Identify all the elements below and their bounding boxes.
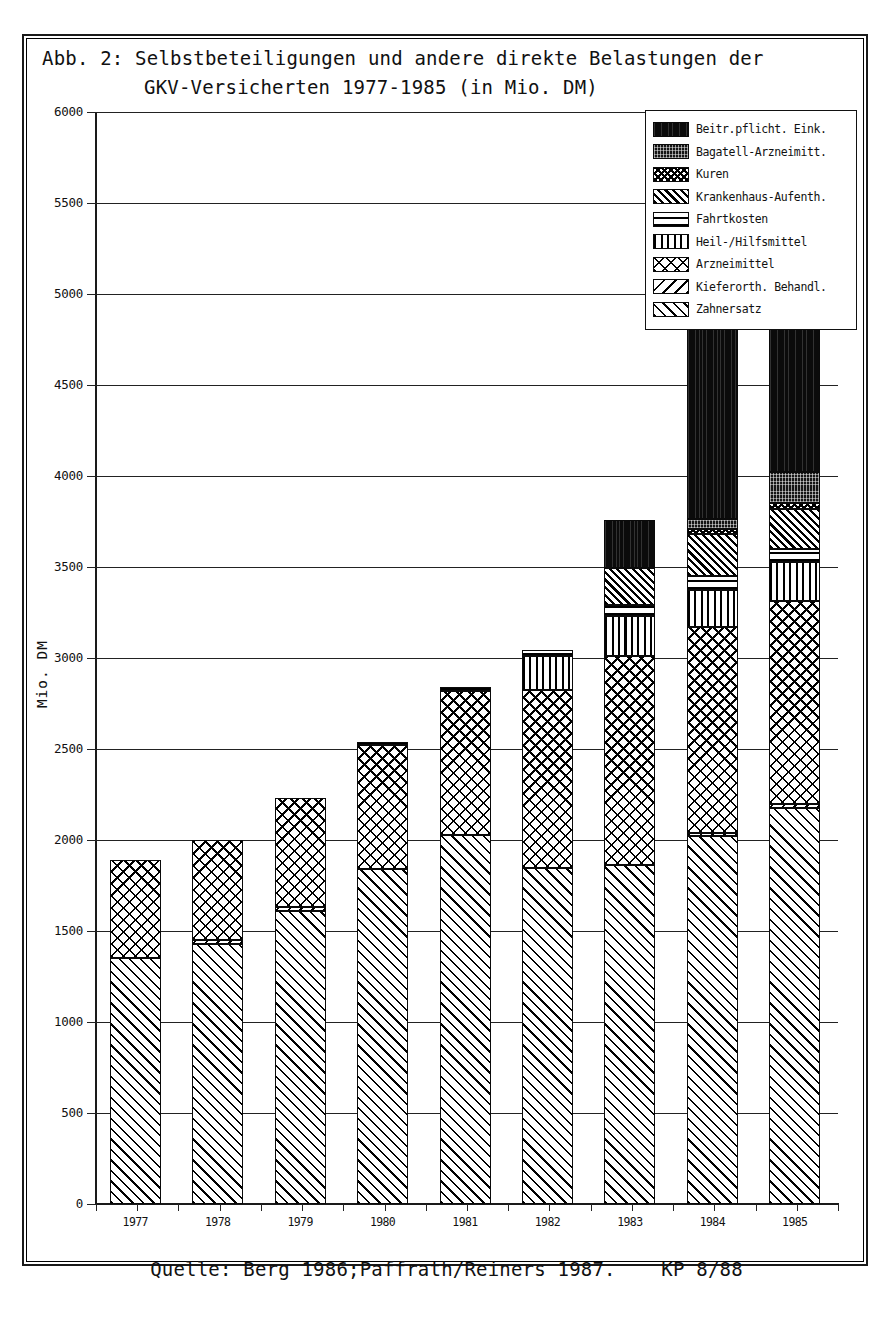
- bar-segment[interactable]: [604, 656, 655, 865]
- legend-item-label: Kuren: [696, 168, 729, 180]
- x-axis-tick: [838, 1204, 839, 1211]
- bar-segment[interactable]: [357, 869, 408, 1204]
- x-axis-tick: [261, 1204, 262, 1211]
- bar-segment[interactable]: [275, 911, 326, 1204]
- legend-item[interactable]: Bagatell-Arzneimitt.: [653, 141, 850, 164]
- bar-segment[interactable]: [769, 804, 820, 809]
- x-axis-tick: [756, 1204, 757, 1211]
- y-axis-tick-label: 1500: [54, 925, 83, 937]
- legend-item[interactable]: Arzneimittel: [653, 253, 850, 276]
- bar-segment[interactable]: [687, 519, 738, 529]
- y-axis-tick: [87, 385, 96, 386]
- chart-title-line1: Abb. 2: Selbstbeteiligungen und andere d…: [36, 44, 856, 73]
- x-axis-tick-minor: [220, 1204, 221, 1211]
- legend-item[interactable]: Krankenhaus-Aufenth.: [653, 186, 850, 209]
- legend: Beitr.pflicht. Eink.Bagatell-Arzneimitt.…: [645, 110, 857, 330]
- y-axis-tick-label: 4500: [54, 379, 83, 391]
- bar-segment[interactable]: [440, 691, 491, 835]
- bar-segment[interactable]: [687, 529, 738, 534]
- y-axis-tick-label: 6000: [54, 106, 83, 118]
- y-axis-tick: [87, 1022, 96, 1023]
- source-note: Quelle: Berg 1986;Paffrath/Reiners 1987.…: [0, 1258, 893, 1280]
- legend-swatch-icon: [653, 189, 689, 204]
- legend-item[interactable]: Heil-/Hilfsmittel: [653, 231, 850, 254]
- bar-segment[interactable]: [192, 944, 243, 1204]
- y-axis-tick: [87, 476, 96, 477]
- legend-swatch-icon: [653, 122, 689, 137]
- bar-segment[interactable]: [769, 562, 820, 601]
- chart-title-line2: GKV-Versicherten 1977-1985 (in Mio. DM): [36, 73, 856, 102]
- bar-segment[interactable]: [604, 568, 655, 605]
- legend-item[interactable]: Fahrtkosten: [653, 208, 850, 231]
- x-axis-tick-label: 1979: [269, 1216, 332, 1228]
- bar-segment[interactable]: [192, 940, 243, 944]
- x-axis-tick-minor: [632, 1204, 633, 1211]
- bar-1985[interactable]: [769, 178, 820, 1204]
- x-axis-tick: [343, 1204, 344, 1211]
- bar-segment[interactable]: [604, 520, 655, 568]
- y-axis-tick-label: 3500: [54, 561, 83, 573]
- x-axis-tick-label: 1980: [351, 1216, 414, 1228]
- bar-segment[interactable]: [522, 868, 573, 1204]
- y-axis-tick-label: 5000: [54, 288, 83, 300]
- bar-1979[interactable]: [275, 798, 326, 1204]
- bar-segment[interactable]: [275, 907, 326, 911]
- bar-segment[interactable]: [769, 808, 820, 1204]
- legend-swatch-icon: [653, 302, 689, 317]
- bar-segment[interactable]: [110, 860, 161, 958]
- bar-segment[interactable]: [687, 576, 738, 590]
- legend-item[interactable]: Zahnersatz: [653, 298, 850, 321]
- legend-item[interactable]: Beitr.pflicht. Eink.: [653, 118, 850, 141]
- bar-segment[interactable]: [522, 690, 573, 868]
- bar-segment[interactable]: [769, 601, 820, 804]
- y-axis-tick: [87, 1204, 96, 1205]
- legend-item-label: Fahrtkosten: [696, 213, 768, 225]
- x-axis-tick-label: 1984: [681, 1216, 744, 1228]
- y-axis-tick: [87, 1113, 96, 1114]
- bar-segment[interactable]: [357, 742, 408, 746]
- bar-segment[interactable]: [687, 627, 738, 833]
- y-axis-tick: [87, 112, 96, 113]
- bar-segment[interactable]: [522, 656, 573, 690]
- legend-item[interactable]: Kieferorth. Behandl.: [653, 276, 850, 299]
- y-axis-title: Mio. DM: [34, 640, 50, 708]
- x-axis-tick-label: 1983: [598, 1216, 661, 1228]
- bar-segment[interactable]: [769, 472, 820, 503]
- bar-segment[interactable]: [687, 833, 738, 837]
- bar-1981[interactable]: [440, 687, 491, 1204]
- y-axis-tick: [87, 658, 96, 659]
- bar-segment[interactable]: [192, 840, 243, 940]
- legend-item-label: Arzneimittel: [696, 258, 774, 270]
- bar-segment[interactable]: [687, 836, 738, 1204]
- bar-segment[interactable]: [110, 958, 161, 1204]
- bar-segment[interactable]: [769, 503, 820, 508]
- bar-1980[interactable]: [357, 742, 408, 1204]
- bar-segment[interactable]: [604, 865, 655, 1204]
- bar-segment[interactable]: [769, 509, 820, 549]
- bar-segment[interactable]: [275, 798, 326, 907]
- bar-segment[interactable]: [357, 745, 408, 869]
- legend-swatch-icon: [653, 234, 689, 249]
- bar-segment[interactable]: [687, 590, 738, 627]
- bar-1978[interactable]: [192, 840, 243, 1204]
- legend-item[interactable]: Kuren: [653, 163, 850, 186]
- bar-segment[interactable]: [440, 835, 491, 1204]
- bar-1984[interactable]: [687, 208, 738, 1204]
- bar-1977[interactable]: [110, 860, 161, 1204]
- bar-segment[interactable]: [769, 549, 820, 562]
- legend-swatch-icon: [653, 279, 689, 294]
- bar-1983[interactable]: [604, 520, 655, 1204]
- x-axis-tick-minor: [549, 1204, 550, 1211]
- bar-segment[interactable]: [687, 534, 738, 576]
- y-axis-tick-label: 500: [61, 1107, 83, 1119]
- x-axis-tick-label: 1981: [434, 1216, 497, 1228]
- bar-segment[interactable]: [522, 650, 573, 656]
- bar-segment[interactable]: [604, 616, 655, 656]
- legend-swatch-icon: [653, 257, 689, 272]
- y-axis-tick: [87, 931, 96, 932]
- bar-segment[interactable]: [604, 605, 655, 616]
- y-axis-tick-label: 0: [76, 1198, 83, 1210]
- bar-segment[interactable]: [440, 687, 491, 691]
- bar-1982[interactable]: [522, 650, 573, 1204]
- source-code: KP 8/88: [661, 1258, 742, 1280]
